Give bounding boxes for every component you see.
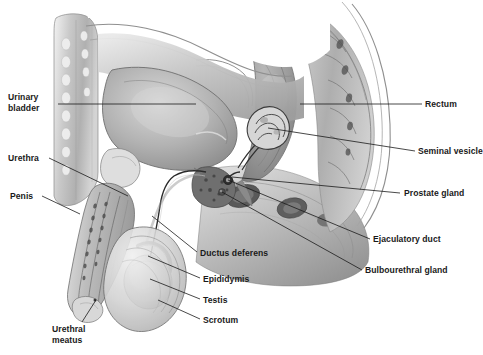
label-urinary-bladder: Urinary bladder [8, 92, 39, 113]
label-prostate-gland: Prostate gland [404, 188, 464, 199]
male-reproductive-system-illustration [0, 0, 483, 355]
label-epididymis: Epididymis [203, 274, 249, 285]
label-rectum: Rectum [425, 99, 457, 110]
label-urethral-meatus: Urethral meatus [52, 324, 85, 345]
label-urethra: Urethra [8, 153, 39, 164]
label-bulbourethral-gland: Bulbourethral gland [365, 265, 448, 276]
label-penis: Penis [10, 191, 33, 202]
anatomy-figure: Urinary bladderUrethraPenisUrethral meat… [0, 0, 483, 355]
label-ejaculatory-duct: Ejaculatory duct [373, 234, 441, 245]
label-testis: Testis [203, 295, 228, 306]
label-seminal-vesicle: Seminal vesicle [418, 146, 483, 157]
label-scrotum: Scrotum [203, 315, 238, 326]
label-ductus-deferens: Ductus deferens [200, 248, 268, 259]
